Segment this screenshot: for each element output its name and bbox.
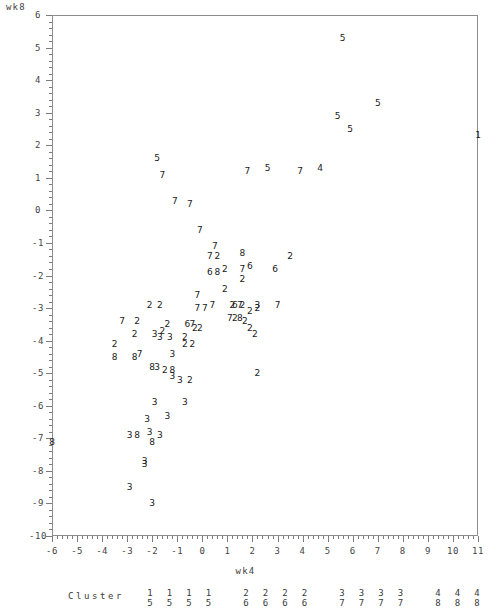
data-point-2: 2 xyxy=(147,300,153,309)
data-point-7: 7 xyxy=(212,242,218,251)
cluster-legend-pair: 37 xyxy=(378,588,383,608)
x-tick-label: -1 xyxy=(171,546,183,556)
y-tick-mark xyxy=(46,243,52,244)
x-axis-title: wk4 xyxy=(0,566,491,576)
y-minor-tick xyxy=(49,490,52,491)
y-minor-tick xyxy=(49,61,52,62)
x-tick-mark xyxy=(378,536,379,542)
x-minor-tick xyxy=(87,536,88,539)
y-minor-tick xyxy=(49,315,52,316)
cluster-legend-pair: 37 xyxy=(339,588,344,608)
y-tick-label: 0 xyxy=(35,205,41,215)
y-tick-label: -6 xyxy=(32,401,44,411)
cluster-legend-top: 4 xyxy=(435,588,440,598)
x-tick-mark xyxy=(102,536,103,542)
x-tick-label: 6 xyxy=(350,546,356,556)
y-minor-tick xyxy=(49,119,52,120)
y-minor-tick xyxy=(49,399,52,400)
y-minor-tick xyxy=(49,171,52,172)
y-minor-tick xyxy=(49,126,52,127)
x-minor-tick xyxy=(247,536,248,539)
x-minor-tick xyxy=(293,536,294,539)
y-tick-label: 4 xyxy=(35,75,41,85)
data-point-3: 3 xyxy=(157,431,163,440)
data-point-2: 2 xyxy=(240,300,246,309)
data-point-7: 7 xyxy=(197,225,203,234)
y-tick-label: -10 xyxy=(29,531,47,541)
y-tick-mark xyxy=(46,406,52,407)
x-minor-tick xyxy=(97,536,98,539)
data-point-6: 6 xyxy=(247,261,253,270)
x-minor-tick xyxy=(373,536,374,539)
x-minor-tick xyxy=(313,536,314,539)
y-tick-label: -2 xyxy=(32,271,44,281)
x-minor-tick xyxy=(237,536,238,539)
y-tick-label: -9 xyxy=(32,498,44,508)
data-point-5: 5 xyxy=(375,98,381,107)
x-minor-tick xyxy=(438,536,439,539)
x-tick-mark xyxy=(152,536,153,542)
y-minor-tick xyxy=(49,41,52,42)
y-minor-tick xyxy=(49,328,52,329)
y-minor-tick xyxy=(49,386,52,387)
y-minor-tick xyxy=(49,197,52,198)
data-point-2: 2 xyxy=(287,251,293,260)
data-point-2: 2 xyxy=(255,304,261,313)
y-minor-tick xyxy=(49,295,52,296)
y-minor-tick xyxy=(49,484,52,485)
x-tick-mark xyxy=(278,536,279,542)
x-minor-tick xyxy=(172,536,173,539)
data-point-7: 7 xyxy=(172,196,178,205)
y-tick-mark xyxy=(46,113,52,114)
cluster-legend-pair: 26 xyxy=(263,588,268,608)
x-tick-mark xyxy=(403,536,404,542)
cluster-legend-pair: 48 xyxy=(474,588,479,608)
x-tick-label: 4 xyxy=(300,546,306,556)
y-tick-label: 3 xyxy=(35,108,41,118)
y-minor-tick xyxy=(49,256,52,257)
data-point-2: 2 xyxy=(157,300,163,309)
cluster-legend-bottom: 7 xyxy=(398,598,403,608)
cluster-legend-top: 2 xyxy=(302,588,307,598)
y-tick-label: 2 xyxy=(35,140,41,150)
y-minor-tick xyxy=(49,477,52,478)
data-point-2: 2 xyxy=(112,339,118,348)
x-minor-tick xyxy=(182,536,183,539)
plot-frame xyxy=(52,15,478,536)
data-point-2: 2 xyxy=(187,375,193,384)
y-minor-tick xyxy=(49,100,52,101)
data-point-2: 2 xyxy=(134,317,140,326)
x-minor-tick xyxy=(388,536,389,539)
x-minor-tick xyxy=(368,536,369,539)
y-minor-tick xyxy=(49,425,52,426)
y-minor-tick xyxy=(49,262,52,263)
y-minor-tick xyxy=(49,217,52,218)
data-point-6: 6 xyxy=(207,268,213,277)
x-minor-tick xyxy=(72,536,73,539)
y-tick-mark xyxy=(46,145,52,146)
cluster-legend-pair: 15 xyxy=(206,588,211,608)
cluster-legend-top: 1 xyxy=(167,588,172,598)
x-minor-tick xyxy=(433,536,434,539)
y-minor-tick xyxy=(49,523,52,524)
x-minor-tick xyxy=(363,536,364,539)
y-minor-tick xyxy=(49,334,52,335)
x-minor-tick xyxy=(212,536,213,539)
cluster-legend-bottom: 8 xyxy=(474,598,479,608)
x-minor-tick xyxy=(268,536,269,539)
x-minor-tick xyxy=(288,536,289,539)
y-minor-tick xyxy=(49,54,52,55)
x-tick-mark xyxy=(478,536,479,542)
x-minor-tick xyxy=(242,536,243,539)
y-tick-mark xyxy=(46,15,52,16)
x-tick-mark xyxy=(127,536,128,542)
data-point-3: 3 xyxy=(167,333,173,342)
y-tick-label: -8 xyxy=(32,466,44,476)
y-minor-tick xyxy=(49,184,52,185)
cluster-legend-top: 4 xyxy=(455,588,460,598)
x-tick-mark xyxy=(52,536,53,542)
y-minor-tick xyxy=(49,74,52,75)
x-tick-label: -4 xyxy=(96,546,108,556)
cluster-legend-pair: 48 xyxy=(455,588,460,608)
data-point-5: 5 xyxy=(265,164,271,173)
